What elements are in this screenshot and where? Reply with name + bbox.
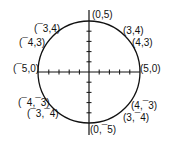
point-label-n3-4: (¯3,4) — [34, 23, 60, 34]
point-label-n4-3: (¯4,3) — [19, 37, 45, 48]
point-label-0-5: (0,5) — [92, 9, 113, 20]
point-label-4-3: (4,3) — [132, 37, 153, 48]
point-label-n3-n4: (¯3,¯4) — [27, 108, 59, 119]
circle-diagram: (0,5) (3,4) (4,3) (5,0) (4,¯3) (3,¯4) (0… — [0, 0, 170, 144]
point-label-4-n3: (4,¯3) — [131, 100, 157, 111]
point-label-n5-0: (¯5,0) — [13, 63, 39, 74]
point-label-3-4: (3,4) — [123, 25, 144, 36]
point-label-5-0: (5,0) — [140, 63, 161, 74]
point-label-n4-n3: (¯4,¯3) — [18, 97, 50, 108]
point-label-3-n4: (3,¯4) — [123, 112, 149, 123]
point-label-0-n5: (0,¯5) — [90, 124, 116, 135]
